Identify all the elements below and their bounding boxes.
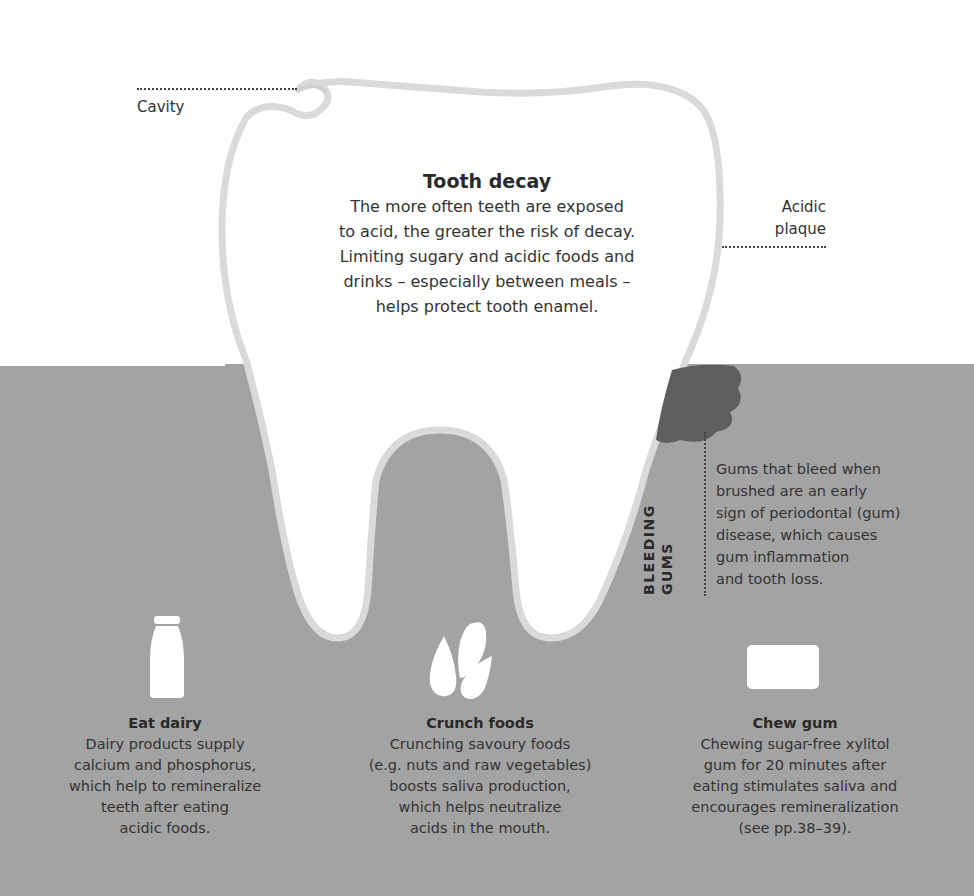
tip-line: Chewing sugar-free xylitol [650,734,940,755]
bleeding-gums-line: brushed are an early [716,480,956,502]
tip-line: boosts saliva production, [330,776,630,797]
tooth-decay-title: Tooth decay [292,168,682,194]
milk-bottle-icon [150,616,184,698]
gum-stick-icon [747,645,819,689]
tip-line: calcium and phosphorus, [30,755,300,776]
cavity-leader-line [137,88,297,90]
tip-title: Chew gum [650,713,940,734]
tip-line: (see pp.38–39). [650,818,940,839]
tooth-decay-line: Limiting sugary and acidic foods and [292,244,682,269]
tooth-decay-line: helps protect tooth enamel. [292,294,682,319]
tip-crunch-foods: Crunch foods Crunching savoury foods (e.… [330,713,630,839]
cavity-label: Cavity [137,98,184,116]
acidic-plaque-label-line1: Acidic [740,196,826,218]
tooth-decay-line: drinks – especially between meals – [292,269,682,294]
tip-line: which helps neutralize [330,797,630,818]
acidic-plaque-leader-line [722,246,826,248]
bleeding-gums-line: and tooth loss. [716,568,956,590]
seeds-icon [430,622,492,699]
bleeding-gums-title: BLEEDING GUMS [640,504,676,595]
bleeding-gums-line: gum inflammation [716,546,956,568]
tip-line: acidic foods. [30,818,300,839]
tip-line: which help to remineralize [30,776,300,797]
tip-line: encourages remineralization [650,797,940,818]
tooth-decay-line: to acid, the greater the risk of decay. [292,219,682,244]
tip-line: (e.g. nuts and raw vegetables) [330,755,630,776]
acidic-plaque-label: Acidic plaque [740,196,826,240]
acidic-plaque-label-line2: plaque [740,218,826,240]
bleeding-gums-leader-line [704,432,706,596]
tip-line: acids in the mouth. [330,818,630,839]
tip-line: Crunching savoury foods [330,734,630,755]
tooth-decay-line: The more often teeth are exposed [292,194,682,219]
bleeding-gums-text: Gums that bleed when brushed are an earl… [716,458,956,590]
tip-line: Dairy products supply [30,734,300,755]
tip-line: eating stimulates saliva and [650,776,940,797]
tip-line: gum for 20 minutes after [650,755,940,776]
tip-title: Eat dairy [30,713,300,734]
bleeding-gums-title-line2: GUMS [658,504,676,595]
bleeding-gums-line: Gums that bleed when [716,458,956,480]
tip-eat-dairy: Eat dairy Dairy products supply calcium … [30,713,300,839]
bleeding-gums-title-line1: BLEEDING [640,504,658,595]
bleeding-gums-line: disease, which causes [716,524,956,546]
tip-line: teeth after eating [30,797,300,818]
tooth-decay-block: Tooth decay The more often teeth are exp… [292,168,682,319]
tip-chew-gum: Chew gum Chewing sugar-free xylitol gum … [650,713,940,839]
tip-title: Crunch foods [330,713,630,734]
bleeding-gums-line: sign of periodontal (gum) [716,502,956,524]
